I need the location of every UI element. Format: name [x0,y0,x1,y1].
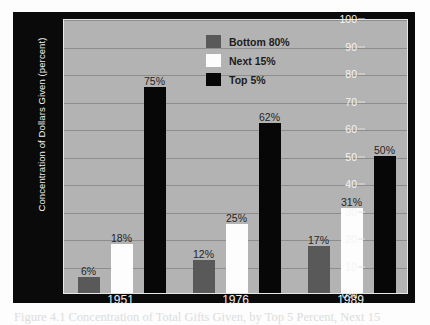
legend-label-next-15: Next 15% [229,55,276,67]
y-tick-mark [358,211,365,212]
chart-frame: Concentration of Dollars Given (percent)… [13,12,415,303]
y-tick-label: 30 [345,206,357,218]
bar [111,244,133,294]
y-tick-mark [358,184,365,185]
bar-value-label: 17% [308,234,329,246]
bar-value-label: 62% [259,111,280,123]
legend-swatch-icon-bottom-80 [206,35,221,48]
bar [226,224,248,293]
figure-container: Concentration of Dollars Given (percent)… [0,0,430,325]
y-tick-label: 40 [345,178,357,190]
legend-item-bottom-80: Bottom 80% [206,32,336,51]
bar [144,87,166,293]
bar [78,277,100,294]
x-tick-label: 1976 [222,293,249,307]
legend: Bottom 80% Next 15% Top 5% [206,32,336,89]
y-tick-label: 60 [345,123,357,135]
y-tick-label: 10 [345,261,357,273]
legend-swatch-icon-next-15 [206,54,221,67]
figure-caption: Figure 4.1 Concentration of Total Gifts … [14,310,416,325]
y-tick-label: 20 [345,233,357,245]
y-tick-mark [358,239,365,240]
legend-item-next-15: Next 15% [206,51,336,70]
y-tick-mark [358,266,365,267]
y-tick-mark [358,46,365,47]
legend-label-top-5: Top 5% [229,74,266,86]
bar [341,208,363,293]
bar [374,156,396,294]
y-tick-mark [358,74,365,75]
y-axis-title: Concentration of Dollars Given (percent) [36,5,47,245]
bar [259,123,281,294]
x-tick-label: 1951 [107,293,134,307]
y-tick-mark [358,101,365,102]
y-axis-band: Concentration of Dollars Given (percent) [13,12,63,303]
y-tick-label: 90 [345,41,357,53]
y-tick-mark [358,156,365,157]
bar [193,260,215,293]
legend-item-top-5: Top 5% [206,70,336,89]
bar-value-label: 75% [144,75,165,87]
x-axis-band: 195119761989 [63,294,408,303]
y-tick-label: 70 [345,96,357,108]
y-tick-mark [358,19,365,20]
y-tick-mark [358,129,365,130]
bar-value-label: 12% [193,248,214,260]
y-tick-label: 80 [345,68,357,80]
bar-value-label: 25% [226,212,247,224]
y-tick-label: 50 [345,151,357,163]
legend-swatch-icon-top-5 [206,73,221,86]
bar-value-label: 18% [111,232,132,244]
legend-label-bottom-80: Bottom 80% [229,36,290,48]
bar-value-label: 6% [81,265,96,277]
bar [308,246,330,293]
y-tick-label: 100 [339,13,357,25]
bar-value-label: 50% [374,144,395,156]
x-tick-label: 1989 [337,293,364,307]
